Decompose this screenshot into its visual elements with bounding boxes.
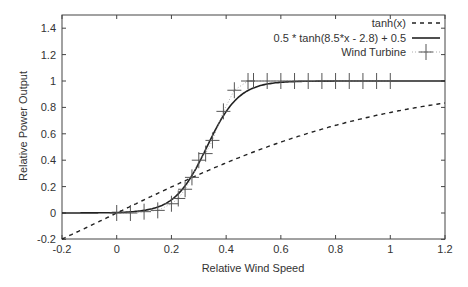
turbine-point-plus-icon bbox=[260, 73, 274, 89]
turbine-point-plus-icon bbox=[383, 73, 397, 89]
x-tick-label: 0.4 bbox=[218, 243, 233, 255]
x-tick-label: 0.8 bbox=[328, 243, 343, 255]
x-tick-label: 1.2 bbox=[437, 243, 452, 255]
y-tick-label: -0.2 bbox=[37, 233, 56, 245]
y-tick-label: 0.8 bbox=[41, 101, 56, 113]
legend-label: Wind Turbine bbox=[341, 46, 406, 58]
fitted-curve bbox=[62, 81, 445, 213]
x-tick-label: 0.2 bbox=[164, 243, 179, 255]
turbine-point-plus-icon bbox=[274, 73, 288, 89]
turbine-point-plus-icon bbox=[329, 73, 343, 89]
turbine-point-plus-icon bbox=[288, 73, 302, 89]
x-tick-label: 0.6 bbox=[273, 243, 288, 255]
y-tick-label: 1 bbox=[50, 75, 56, 87]
turbine-point-plus-icon bbox=[370, 73, 384, 89]
turbine-point-plus-icon bbox=[123, 205, 137, 221]
turbine-point-plus-icon bbox=[356, 73, 370, 89]
turbine-point-plus-icon bbox=[110, 205, 124, 221]
chart: -0.200.20.40.60.811.2-0.200.20.40.60.811… bbox=[0, 0, 468, 287]
y-tick-label: 0 bbox=[50, 207, 56, 219]
legend: tanh(x)0.5 * tanh(8.5*x - 2.8) + 0.5Wind… bbox=[274, 17, 440, 60]
turbine-point-plus-icon bbox=[301, 73, 315, 89]
turbine-point-plus-icon bbox=[342, 73, 356, 89]
y-axis-label: Relative Power Output bbox=[17, 71, 29, 181]
y-tick-label: 1.2 bbox=[41, 49, 56, 61]
turbine-point-plus-icon bbox=[315, 73, 329, 89]
x-tick-label: 1 bbox=[387, 243, 393, 255]
plot-area bbox=[62, 73, 445, 239]
legend-plus-icon bbox=[419, 44, 433, 60]
legend-label: tanh(x) bbox=[372, 17, 406, 29]
turbine-point-plus-icon bbox=[216, 103, 230, 119]
tanh-curve bbox=[62, 103, 445, 239]
legend-label: 0.5 * tanh(8.5*x - 2.8) + 0.5 bbox=[274, 32, 406, 44]
turbine-point-plus-icon bbox=[137, 204, 151, 220]
y-tick-label: 0.4 bbox=[41, 154, 56, 166]
y-tick-label: 0.6 bbox=[41, 128, 56, 140]
y-tick-label: 1.4 bbox=[41, 22, 56, 34]
y-tick-label: 0.2 bbox=[41, 181, 56, 193]
x-tick-label: 0 bbox=[114, 243, 120, 255]
x-axis-label: Relative Wind Speed bbox=[202, 262, 305, 274]
